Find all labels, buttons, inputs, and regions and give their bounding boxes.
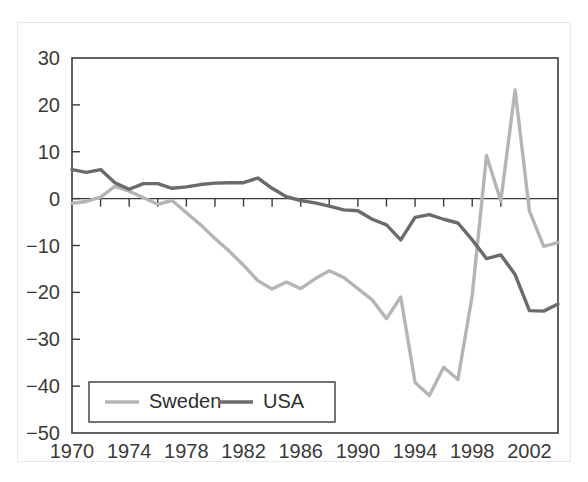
y-tick-label: 30 <box>38 47 60 69</box>
y-axis-tick-labels: 3020100−10−20−30−40−50 <box>26 47 60 444</box>
line-chart: 3020100−10−20−30−40−50 19701974197819821… <box>0 0 588 482</box>
x-tick-label: 1986 <box>278 440 323 462</box>
x-tick-label: 1994 <box>393 440 438 462</box>
x-tick-label: 1990 <box>336 440 381 462</box>
series-layer <box>72 90 558 396</box>
y-tick-label: 0 <box>49 188 60 210</box>
x-tick-label: 1970 <box>50 440 95 462</box>
y-tick-label: 20 <box>38 94 60 116</box>
y-tick-label: −40 <box>26 375 60 397</box>
x-tick-label: 1974 <box>107 440 152 462</box>
y-tick-label: −20 <box>26 281 60 303</box>
axis-tick-marks <box>72 105 529 386</box>
series-line-sweden <box>72 90 558 396</box>
x-tick-label: 1998 <box>450 440 495 462</box>
x-tick-label: 2002 <box>507 440 552 462</box>
x-axis-tick-labels: 197019741978198219861990199419982002 <box>50 440 552 462</box>
x-tick-label: 1978 <box>164 440 209 462</box>
chart-figure: 3020100−10−20−30−40−50 19701974197819821… <box>0 0 588 482</box>
plot-frame <box>72 58 558 433</box>
series-line-usa <box>72 170 558 312</box>
y-tick-label: 10 <box>38 141 60 163</box>
chart-legend: SwedenUSA <box>89 382 335 422</box>
y-tick-label: −10 <box>26 235 60 257</box>
legend-label-sweden: Sweden <box>149 390 221 412</box>
y-tick-label: −30 <box>26 328 60 350</box>
legend-label-usa: USA <box>263 390 305 412</box>
x-tick-label: 1982 <box>221 440 266 462</box>
